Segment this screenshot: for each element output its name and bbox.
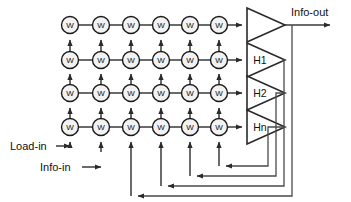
weight-node[interactable]: W [153, 119, 170, 136]
amp-out[interactable] [247, 8, 285, 42]
weight-node-label: W [157, 21, 165, 30]
weight-node-label: W [215, 56, 223, 65]
weight-node[interactable]: W [123, 119, 140, 136]
weight-node[interactable]: W [182, 85, 199, 102]
weight-node[interactable]: W [123, 17, 140, 34]
amplifier-column: H1 H2 Hn [247, 8, 285, 144]
weight-node-label: W [97, 89, 105, 98]
weight-node[interactable]: W [62, 17, 79, 34]
weight-node[interactable]: W [153, 52, 170, 69]
weight-node-label: W [97, 123, 105, 132]
weight-node-label: W [157, 89, 165, 98]
weight-node[interactable]: W [182, 119, 199, 136]
weight-node-label: W [157, 56, 165, 65]
amp-h1[interactable]: H1 [247, 43, 285, 77]
weight-node-label: W [215, 21, 223, 30]
systolic-array-diagram: W W W W W W W [0, 0, 351, 202]
weight-node-label: W [97, 21, 105, 30]
weight-node[interactable]: W [211, 85, 228, 102]
load-in-label: Load-in [10, 140, 47, 152]
weight-node-label: W [186, 89, 194, 98]
amp-h2-label: H2 [253, 87, 267, 99]
weight-node[interactable]: W [93, 52, 110, 69]
amp-hn-label: Hn [253, 121, 267, 133]
weight-node[interactable]: W [93, 17, 110, 34]
weight-node[interactable]: W [211, 119, 228, 136]
weight-node-label: W [157, 123, 165, 132]
weight-node[interactable]: W [93, 119, 110, 136]
info-out-net: Info-out [285, 6, 330, 25]
weight-node[interactable]: W [211, 52, 228, 69]
weight-node[interactable]: W [211, 17, 228, 34]
weight-node-label: W [215, 89, 223, 98]
weight-node[interactable]: W [182, 52, 199, 69]
weight-node-label: W [215, 123, 223, 132]
weight-node[interactable]: W [123, 85, 140, 102]
weight-node-grid: W W W W W W W [62, 17, 228, 136]
info-in-net: Info-in [40, 161, 101, 173]
weight-node-label: W [66, 21, 74, 30]
weight-node[interactable]: W [62, 85, 79, 102]
weight-node-label: W [186, 123, 194, 132]
load-in-net: Load-in [10, 140, 70, 152]
weight-node-label: W [127, 21, 135, 30]
diagram-canvas: W W W W W W W [0, 0, 351, 202]
weight-node-label: W [186, 21, 194, 30]
weight-node[interactable]: W [182, 17, 199, 34]
info-in-label: Info-in [40, 161, 71, 173]
weight-node-label: W [127, 89, 135, 98]
weight-node-label: W [66, 123, 74, 132]
weight-node[interactable]: W [153, 17, 170, 34]
weight-node-label: W [97, 56, 105, 65]
weight-node[interactable]: W [153, 85, 170, 102]
amp-h1-label: H1 [253, 54, 267, 66]
weight-node[interactable]: W [62, 119, 79, 136]
weight-node-label: W [66, 89, 74, 98]
weight-node-label: W [66, 56, 74, 65]
weight-node-label: W [127, 56, 135, 65]
weight-node-label: W [127, 123, 135, 132]
info-out-label: Info-out [291, 6, 328, 18]
weight-node[interactable]: W [123, 52, 140, 69]
weight-node[interactable]: W [93, 85, 110, 102]
weight-node-label: W [186, 56, 194, 65]
weight-node[interactable]: W [62, 52, 79, 69]
